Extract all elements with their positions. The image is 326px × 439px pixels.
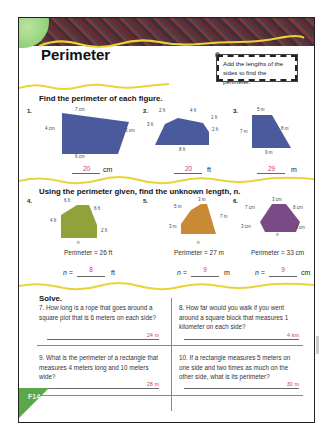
section2-title: Using the perimeter given, find the unkn…: [39, 187, 240, 196]
problem-number: 4.: [27, 198, 32, 204]
side-label: 1 ft: [211, 115, 217, 120]
question-10: 10. If a rectangle measures 5 meters on …: [179, 353, 299, 382]
side-label: 4 cm: [45, 126, 55, 131]
question-number: 7.: [39, 304, 44, 311]
side-label: 7 m: [220, 214, 228, 219]
answer-line: [174, 173, 202, 174]
perimeter-given: Perimeter = 26 ft: [64, 249, 112, 256]
side-label: 2 ft: [212, 127, 218, 132]
answer-unit: cm: [103, 166, 112, 173]
answer-line: [184, 339, 299, 340]
n-label: n =: [63, 269, 73, 276]
answer-value: 9: [191, 266, 219, 273]
side-label: 3 cm: [272, 197, 282, 202]
answer-value: 4 km: [259, 332, 299, 338]
page-code: F14: [28, 393, 40, 400]
n-label: n =: [255, 269, 265, 276]
answer-value: 30 m: [259, 381, 299, 387]
side-mark: [316, 336, 319, 354]
side-label: 8 m: [281, 126, 289, 131]
answer-value: 20: [176, 165, 201, 172]
section-divider-wave: [19, 281, 314, 291]
side-label: 3 m: [169, 224, 177, 229]
problem-number: 2.: [143, 108, 148, 114]
section1-title: Find the perimeter of each figure.: [39, 94, 162, 103]
answer-value: 9: [269, 266, 297, 273]
answer-line: [47, 339, 159, 340]
answer-unit: ft: [111, 269, 115, 276]
answer-unit: ft: [207, 166, 211, 173]
section-divider-wave: [19, 81, 169, 91]
answer-value: 29: [259, 165, 284, 172]
answer-unit: m: [224, 269, 230, 276]
question-8: 8. How far would you walk if you went ar…: [179, 303, 299, 332]
figure-1: [44, 108, 144, 158]
perimeter-given: Perimeter = 33 cm: [251, 249, 304, 256]
side-label: n: [77, 240, 80, 245]
question-7: 7. How long is a rope that goes around a…: [39, 303, 159, 322]
side-label: 7 cm: [75, 107, 85, 112]
question-number: 8.: [179, 304, 184, 311]
problem-number: 5.: [143, 198, 148, 204]
side-label: 2 ft: [101, 228, 107, 233]
answer-line: [269, 276, 297, 277]
question-9: 9. What is the perimeter of a rectangle …: [39, 353, 159, 382]
answer-line: [184, 388, 299, 389]
perimeter-given: Perimeter = 27 m: [174, 249, 224, 256]
hint-box: Add the lengths of the sides to find the…: [217, 55, 297, 81]
answer-value: 20: [74, 165, 99, 172]
side-label: 4 ft: [190, 108, 196, 113]
side-label: 7 cm: [245, 205, 255, 210]
problem-number: 3.: [233, 108, 238, 114]
side-label: 3 cm: [295, 225, 305, 230]
row-divider: [37, 345, 303, 346]
figure-4: [59, 203, 109, 243]
side-label: 3 cm: [125, 128, 135, 133]
page-title: Perimeter: [41, 46, 110, 63]
answer-line: [257, 173, 285, 174]
side-label: 3 cm: [241, 224, 251, 229]
side-label: 9 m: [265, 150, 273, 155]
answer-unit: m: [291, 166, 297, 173]
n-label: n =: [177, 269, 187, 276]
answer-value: 8: [77, 266, 105, 273]
side-label: 6 cm: [75, 154, 85, 159]
side-label: n: [276, 232, 279, 237]
question-text: What is the perimeter of a rectangle tha…: [39, 354, 158, 380]
answer-line: [47, 388, 159, 389]
question-text: How far would you walk if you went aroun…: [179, 304, 288, 330]
side-label: 6 ft: [64, 198, 70, 203]
figure-5: [179, 200, 224, 240]
side-label: 3 m: [198, 197, 206, 202]
answer-line: [77, 276, 105, 277]
side-label: 8 ft: [179, 147, 185, 152]
answer-value: 28 m: [119, 381, 159, 387]
worksheet-page: Perimeter Add the lengths of the sides t…: [18, 17, 315, 423]
section3-title: Solve.: [39, 294, 62, 303]
answer-line: [72, 173, 100, 174]
side-label: 4 ft: [50, 218, 56, 223]
problem-number: 6.: [233, 198, 238, 204]
section-divider-wave: [19, 175, 314, 185]
question-text: How long is a rope that goes around a sq…: [39, 304, 156, 321]
figure-3: [249, 113, 309, 158]
side-label: 5 m: [257, 107, 265, 112]
problem-number: 1.: [27, 108, 32, 114]
side-label: n: [197, 240, 200, 245]
answer-unit: cm: [301, 269, 310, 276]
question-number: 10.: [179, 354, 188, 361]
side-label: 3 ft: [147, 122, 153, 127]
side-label: 2 ft: [159, 108, 165, 113]
question-number: 9.: [39, 354, 44, 361]
question-text: If a rectangle measures 5 meters on one …: [179, 354, 290, 380]
side-label: 7 m: [240, 129, 248, 134]
side-label: 5 m: [174, 204, 182, 209]
side-label: 8 cm: [293, 205, 303, 210]
side-label: 6 ft: [94, 206, 100, 211]
row-divider: [37, 395, 303, 396]
answer-value: 24 m: [119, 332, 159, 338]
answer-line: [191, 276, 219, 277]
